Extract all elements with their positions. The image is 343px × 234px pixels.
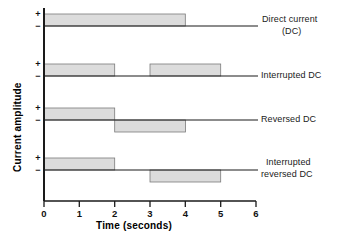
pulse-negative-3-5	[150, 170, 221, 182]
x-tick-label-2: 2	[108, 208, 122, 219]
y-axis-title: Current amplitude	[12, 82, 23, 172]
x-axis-ticks	[44, 201, 256, 207]
sign-minus-row1: −	[33, 21, 43, 31]
pulse-positive-3-5	[150, 64, 221, 76]
x-tick-label-0: 0	[37, 208, 51, 219]
pulse-positive-0-4	[44, 14, 185, 26]
pulse-positive-0-2	[44, 158, 115, 170]
sign-plus-row3: +	[33, 103, 43, 113]
sign-plus-row1: +	[33, 9, 43, 19]
x-tick-label-4: 4	[178, 208, 192, 219]
sign-plus-row4: +	[33, 153, 43, 163]
pulse-positive-0-2	[44, 108, 115, 120]
sign-minus-row3: −	[33, 115, 43, 125]
pulse-positive-0-2	[44, 64, 115, 76]
series-label-interrupted-reversed-dc-line1: Interrupted	[266, 157, 311, 168]
x-tick-label-5: 5	[214, 208, 228, 219]
waveform-chart: Current amplitude + − + − + − + − Direct…	[0, 0, 343, 234]
x-tick-label-6: 6	[249, 208, 263, 219]
x-tick-label-1: 1	[72, 208, 86, 219]
series-direct-current-waveform	[44, 14, 185, 26]
series-label-interrupted-reversed-dc-line2: reversed DC	[261, 169, 313, 180]
x-tick-label-3: 3	[143, 208, 157, 219]
pulse-negative-2-4	[115, 120, 186, 132]
x-axis-title: Time (seconds)	[96, 220, 172, 231]
series-label-direct-current-line2: (DC)	[282, 26, 301, 37]
series-label-interrupted-dc: Interrupted DC	[261, 70, 321, 81]
series-label-reversed-dc: Reversed DC	[261, 114, 316, 125]
sign-minus-row4: −	[33, 165, 43, 175]
series-label-direct-current-line1: Direct current	[262, 14, 317, 25]
series-interrupted-dc-waveform	[44, 64, 221, 76]
sign-plus-row2: +	[33, 59, 43, 69]
sign-minus-row2: −	[33, 71, 43, 81]
